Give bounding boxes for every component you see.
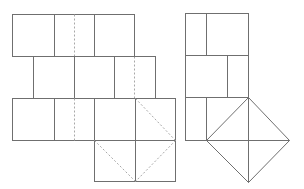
diagram-canvas <box>0 0 304 189</box>
left-row1-outline <box>13 15 135 57</box>
left-diagonal-fold <box>136 99 176 141</box>
left-diagonal-fold <box>136 141 176 182</box>
right-figure <box>186 14 290 183</box>
right-row1-outline <box>186 14 249 56</box>
left-diagonal-fold <box>95 141 136 182</box>
left-figure <box>13 15 176 182</box>
left-row2-outline <box>34 57 156 99</box>
right-row3-outline <box>186 98 249 141</box>
right-row2-outline <box>186 56 249 98</box>
